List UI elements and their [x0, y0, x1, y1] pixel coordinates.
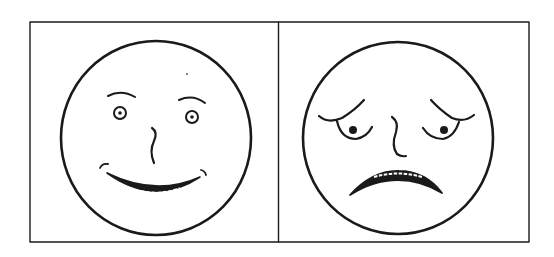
- happy-left-brow: [108, 93, 135, 97]
- speck: [186, 73, 188, 75]
- happy-right-eye: [186, 111, 198, 123]
- faces-diagram: [0, 0, 554, 257]
- sad-mouth: [350, 171, 442, 195]
- happy-mouth: [107, 173, 200, 191]
- sad-nose: [392, 117, 406, 156]
- happy-right-dimple: [201, 170, 206, 175]
- happy-left-eye: [114, 107, 126, 119]
- sad-left-eye: [337, 121, 372, 139]
- happy-left-dimple: [100, 164, 108, 168]
- sad-face-outline: [303, 42, 493, 234]
- happy-face-icon: [61, 41, 251, 235]
- sad-left-brow: [319, 100, 364, 121]
- sad-right-brow: [431, 100, 474, 120]
- sad-right-eye: [423, 122, 459, 139]
- sad-face-icon: [303, 42, 493, 234]
- happy-right-brow: [179, 98, 205, 103]
- happy-nose: [152, 128, 156, 163]
